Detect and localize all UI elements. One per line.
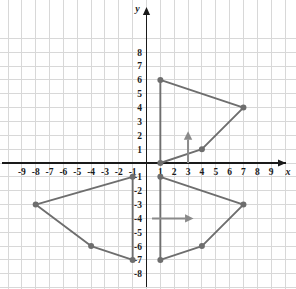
grid-layer [0,0,296,289]
x-tick-label: -7 [46,167,54,177]
horizontal-translation-arrow-head [185,214,194,222]
x-tick-label: -5 [73,167,81,177]
y-tick-label: 3 [137,117,142,127]
y-axis-label: y [134,3,140,14]
y-tick-label: 1 [137,145,142,155]
x-tick-label: 9 [269,167,274,177]
vertex-point [199,243,205,249]
y-tick-label: 6 [137,75,142,85]
graph-canvas: -9-8-7-6-5-4-3-2-112345678987654321-1-2-… [0,0,296,289]
y-tick-label: 7 [137,61,142,71]
y-tick-label: -8 [134,269,142,279]
vertex-point [130,257,136,263]
y-tick-label: -5 [134,228,142,238]
vertex-point [157,257,163,263]
x-tick-label: -6 [59,167,67,177]
x-tick-label: -3 [101,167,109,177]
x-tick-label: 3 [186,167,191,177]
x-tick-label: -9 [18,167,26,177]
vertex-point [88,243,94,249]
x-tick-label: -4 [87,167,95,177]
y-tick-label: 5 [137,89,142,99]
x-tick-label: 6 [227,167,232,177]
x-tick-label: -2 [115,167,123,177]
x-tick-label: -8 [32,167,40,177]
vertex-point [240,105,246,111]
vertex-point [199,146,205,152]
x-tick-label: 7 [241,167,246,177]
y-tick-label: 2 [137,131,142,141]
vertex-point [33,202,39,208]
coordinate-plane-graph: -9-8-7-6-5-4-3-2-112345678987654321-1-2-… [0,0,296,289]
vertex-point [157,174,163,180]
y-tick-label: -4 [134,214,142,224]
x-tick-label: 5 [213,167,218,177]
x-tick-label: 8 [255,167,260,177]
x-axis-label: x [285,166,291,177]
x-tick-label: 2 [172,167,177,177]
y-tick-label: -3 [134,200,142,210]
y-tick-label: 8 [137,48,142,58]
y-tick-label: 4 [137,103,142,113]
vertex-point [130,174,136,180]
x-tick-label: 4 [200,167,205,177]
vertex-point [240,202,246,208]
y-axis-arrowhead [143,7,150,15]
y-tick-label: -6 [134,242,142,252]
y-tick-label: -2 [134,186,142,196]
vertex-point [157,160,163,166]
vertex-point [157,77,163,83]
